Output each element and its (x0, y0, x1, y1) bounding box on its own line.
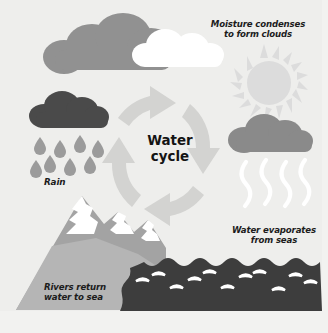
label-rivers-return: Rivers return water to sea (44, 282, 144, 302)
label-water-evaporates: Water evaporates from seas (224, 225, 324, 245)
water-cycle-diagram: Water cycle Moisture condenses to form c… (0, 0, 328, 333)
label-rain: Rain (44, 177, 65, 187)
label-moisture-condenses: Moisture condenses to form clouds (196, 19, 320, 39)
sea-icon (120, 258, 322, 311)
page-title: Water cycle (128, 133, 212, 166)
